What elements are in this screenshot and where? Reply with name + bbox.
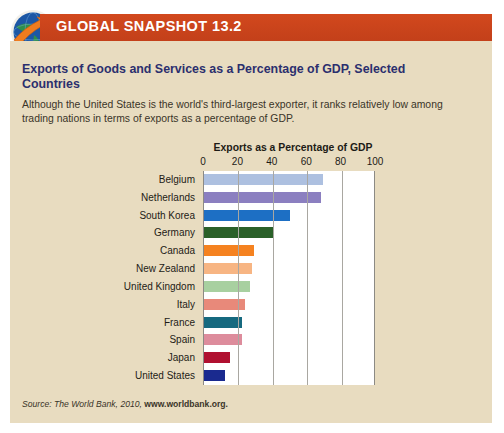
bar-united-states (204, 370, 225, 381)
category-label-new-zealand: New Zealand (120, 260, 199, 278)
category-label-france: France (120, 314, 199, 332)
bar-row (204, 189, 374, 207)
bar-row (204, 349, 374, 367)
bar-belgium (204, 174, 323, 185)
category-label-japan: Japan (120, 349, 199, 367)
chart-title: Exports as a Percentage of GDP (203, 142, 383, 153)
bar-new-zealand (204, 263, 252, 274)
x-tick-80: 80 (335, 156, 346, 167)
category-label-italy: Italy (120, 296, 199, 314)
gridline-20 (238, 171, 239, 385)
category-label-belgium: Belgium (120, 171, 199, 189)
bar-row (204, 314, 374, 332)
bar-rows (204, 171, 374, 385)
x-tick-40: 40 (266, 156, 277, 167)
bar-france (204, 317, 242, 328)
bar-row (204, 207, 374, 225)
x-tick-20: 20 (232, 156, 243, 167)
x-tick-100: 100 (367, 156, 384, 167)
x-tick-0: 0 (200, 156, 206, 167)
bar-south-korea (204, 210, 290, 221)
bar-row (204, 242, 374, 260)
bar-row (204, 367, 374, 385)
gridline-60 (307, 171, 308, 385)
category-label-spain: Spain (120, 331, 199, 349)
page-description: Although the United States is the world'… (22, 98, 472, 126)
bar-row (204, 278, 374, 296)
bar-row (204, 331, 374, 349)
plot-area (203, 171, 375, 385)
bar-canada (204, 245, 254, 256)
bar-united-kingdom (204, 281, 250, 292)
bar-netherlands (204, 192, 321, 203)
source-note: Source: The World Bank, 2010, www.worldb… (22, 399, 228, 409)
category-labels: BelgiumNetherlandsSouth KoreaGermanyCana… (120, 171, 199, 385)
bar-row (204, 171, 374, 189)
banner-title: GLOBAL SNAPSHOT 13.2 (56, 18, 242, 34)
category-label-canada: Canada (120, 242, 199, 260)
bar-row (204, 260, 374, 278)
page-title: Exports of Goods and Services as a Perce… (22, 62, 462, 92)
gridline-80 (342, 171, 343, 385)
category-label-netherlands: Netherlands (120, 189, 199, 207)
category-label-united-states: United States (120, 367, 199, 385)
global-snapshot-figure: GLOBAL SNAPSHOT 13.2 Exports of Goods an… (0, 0, 504, 433)
x-tick-60: 60 (301, 156, 312, 167)
source-url: www.worldbank.org. (144, 399, 228, 409)
bar-spain (204, 334, 242, 345)
bar-row (204, 296, 374, 314)
category-label-south-korea: South Korea (120, 207, 199, 225)
category-label-united-kingdom: United Kingdom (120, 278, 199, 296)
x-axis-ticks: 020406080100 (203, 156, 375, 168)
bar-japan (204, 352, 230, 363)
category-label-germany: Germany (120, 224, 199, 242)
bar-row (204, 224, 374, 242)
source-prefix: Source: The World Bank, 2010, (22, 399, 144, 409)
gridline-40 (273, 171, 274, 385)
